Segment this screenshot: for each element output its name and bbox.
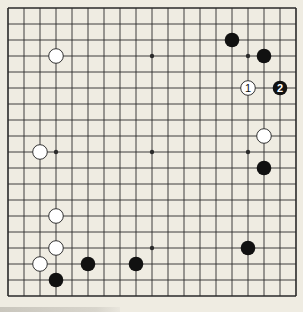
star-point	[54, 150, 58, 154]
white-stone[interactable]	[33, 145, 48, 160]
white-stone[interactable]	[33, 257, 48, 272]
bottom-bar	[0, 307, 120, 312]
star-point	[150, 54, 154, 58]
white-stone[interactable]	[49, 209, 64, 224]
white-stone[interactable]	[49, 49, 64, 64]
white-stone[interactable]: 1	[241, 81, 256, 96]
star-point	[246, 150, 250, 154]
white-stone[interactable]	[257, 129, 272, 144]
black-stone[interactable]	[257, 49, 272, 64]
star-point	[246, 54, 250, 58]
move-number-label: 2	[277, 82, 283, 94]
white-stone[interactable]	[49, 241, 64, 256]
move-number-label: 1	[245, 82, 251, 94]
stones-layer: 12	[33, 33, 288, 288]
black-stone[interactable]	[225, 33, 240, 48]
black-stone[interactable]	[241, 241, 256, 256]
black-stone[interactable]: 2	[273, 81, 288, 96]
black-stone[interactable]	[129, 257, 144, 272]
star-point	[150, 150, 154, 154]
black-stone[interactable]	[257, 161, 272, 176]
black-stone[interactable]	[81, 257, 96, 272]
go-board[interactable]: 12	[0, 0, 303, 306]
star-point	[150, 246, 154, 250]
black-stone[interactable]	[49, 273, 64, 288]
